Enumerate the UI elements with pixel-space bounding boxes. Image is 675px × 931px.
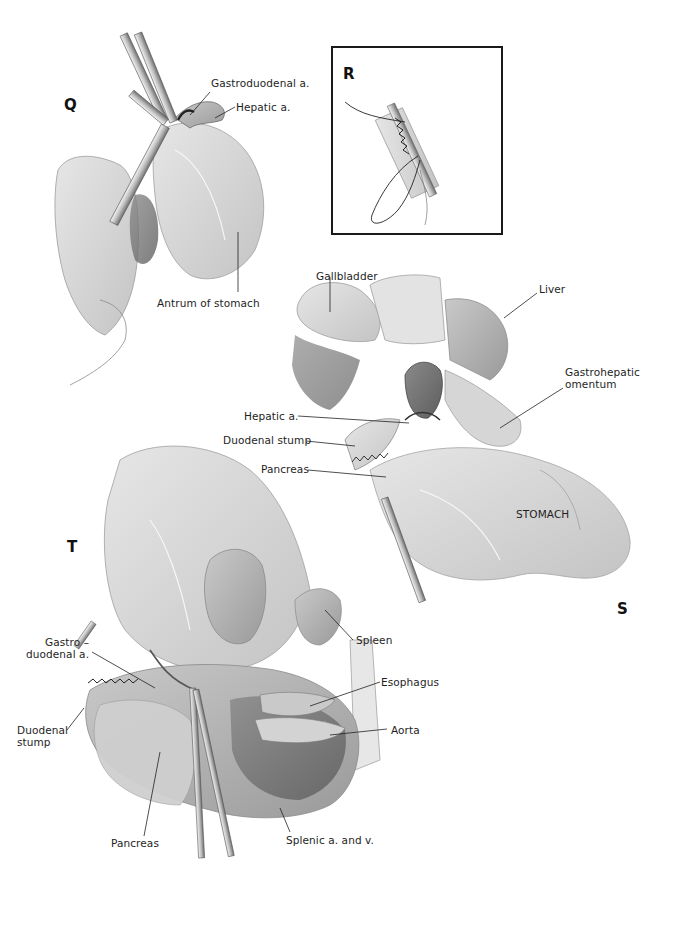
panel-letter-r: R [343, 65, 355, 83]
label-stomach: STOMACH [516, 508, 569, 520]
label-hepatic-artery-s: Hepatic a. [244, 410, 298, 422]
panel-letter-q: Q [64, 96, 77, 114]
label-esophagus: Esophagus [381, 676, 439, 688]
label-aorta: Aorta [391, 724, 420, 736]
label-splenic-artery-and-vein: Splenic a. and v. [286, 834, 374, 846]
label-liver: Liver [539, 283, 565, 295]
label-pancreas-s: Pancreas [261, 463, 309, 475]
label-antrum-of-stomach: Antrum of stomach [157, 297, 260, 309]
panel-r-frame [331, 46, 503, 235]
label-gastrohepatic-omentum: Gastrohepatic omentum [565, 366, 640, 390]
label-hepatic-artery-q: Hepatic a. [236, 101, 290, 113]
panel-letter-s: S [617, 600, 628, 618]
label-duodenal-stump-t: Duodenal stump [17, 724, 68, 748]
panel-s-drawing [292, 275, 630, 603]
surgical-illustration-page: Q R S T Gastroduodenal a. Hepatic a. Ant… [0, 0, 675, 931]
panel-t-drawing [67, 446, 387, 858]
label-gallbladder: Gallbladder [316, 270, 378, 282]
label-pancreas-t: Pancreas [111, 837, 159, 849]
label-duodenal-stump-s: Duodenal stump [223, 434, 311, 446]
label-spleen: Spleen [356, 634, 392, 646]
panel-letter-t: T [67, 538, 77, 556]
label-gastroduodenal-artery-t: Gastro – duodenal a. [26, 636, 89, 660]
label-gastroduodenal-artery-q: Gastroduodenal a. [211, 77, 309, 89]
